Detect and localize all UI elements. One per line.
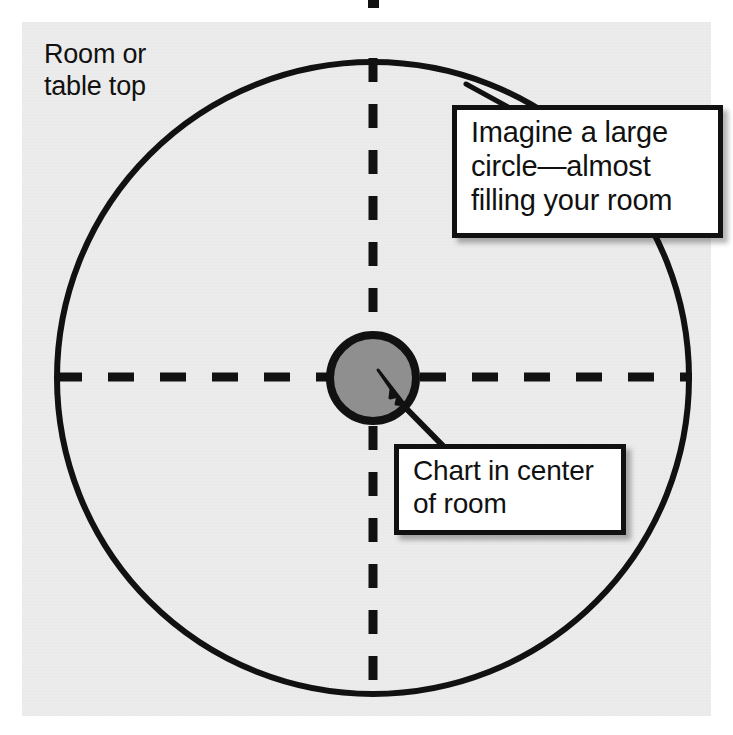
top-edge-artifact	[368, 0, 379, 8]
chart-callout-line-2: of room	[413, 488, 609, 521]
room-label-line-2: table top	[44, 70, 146, 102]
room-diagram-figure: Room or table top Imagine a large circle…	[0, 0, 733, 735]
chart-circle	[330, 335, 416, 421]
imagine-a-large-circle-callout: Imagine a large circle—almost filling yo…	[452, 105, 723, 238]
room-or-table-top-label: Room or table top	[44, 38, 146, 103]
imagine-callout-line-2: circle—almost	[471, 150, 706, 184]
imagine-callout-line-3: filling your room	[471, 184, 706, 218]
chart-callout-line-1: Chart in center	[413, 455, 609, 488]
imagine-callout-line-1: Imagine a large	[471, 116, 706, 150]
room-label-line-1: Room or	[44, 38, 146, 70]
chart-in-center-of-room-callout: Chart in center of room	[394, 444, 626, 535]
